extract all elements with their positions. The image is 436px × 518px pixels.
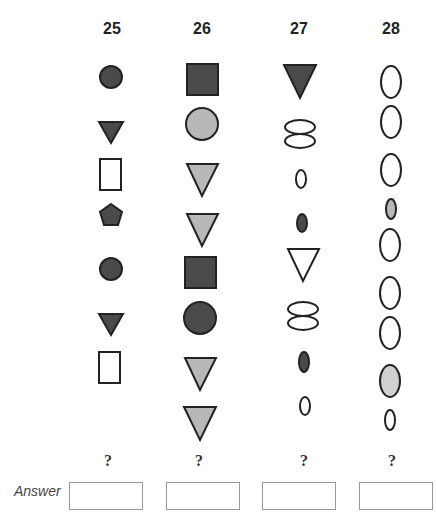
answer-box-27[interactable] <box>262 482 336 510</box>
question-mark-28: ? <box>382 452 402 470</box>
grey-triangle-down-icon <box>187 214 218 246</box>
white-ellipse-icon <box>381 106 401 138</box>
shape-sequences <box>0 0 436 518</box>
small-grey-ellipse-icon <box>386 199 396 219</box>
small-white-ellipse-icon <box>300 397 310 415</box>
white-double-ellipse-icon <box>288 316 318 330</box>
answer-label: Answer <box>14 483 61 499</box>
answer-box-28[interactable] <box>359 482 433 510</box>
white-rectangle-icon <box>99 352 120 383</box>
white-ellipse-icon <box>380 229 400 261</box>
dark-circle-icon <box>100 258 122 280</box>
dark-square-icon <box>187 64 218 95</box>
white-double-ellipse-icon <box>288 302 318 316</box>
question-mark-27: ? <box>294 452 314 470</box>
grey-circle-icon <box>186 108 218 140</box>
white-double-ellipse-icon <box>285 134 315 148</box>
dark-circle-icon <box>100 66 122 88</box>
white-ellipse-icon <box>380 277 400 309</box>
small-dark-ellipse-icon <box>297 214 307 232</box>
small-white-ellipse-icon <box>385 410 395 430</box>
white-ellipse-icon <box>381 66 401 98</box>
small-white-ellipse-icon <box>296 170 306 188</box>
dark-triangle-down-icon <box>99 314 123 335</box>
answer-box-25[interactable] <box>69 482 143 510</box>
grey-ellipse-icon <box>380 365 400 397</box>
white-ellipse-icon <box>380 317 400 349</box>
question-mark-26: ? <box>189 452 209 470</box>
grey-triangle-down-icon <box>187 164 218 196</box>
small-dark-ellipse-icon <box>299 352 309 372</box>
dark-circle-icon <box>184 302 216 334</box>
dark-square-icon <box>185 257 216 288</box>
dark-triangle-down-icon <box>99 122 123 143</box>
grey-triangle-down-icon <box>185 358 216 390</box>
white-triangle-down-icon <box>288 249 319 281</box>
grey-triangle-down-icon <box>184 407 216 440</box>
white-rectangle-icon <box>100 159 121 190</box>
question-mark-25: ? <box>98 452 118 470</box>
white-ellipse-icon <box>381 154 401 186</box>
dark-triangle-down-icon <box>284 65 316 98</box>
answer-box-26[interactable] <box>166 482 240 510</box>
white-double-ellipse-icon <box>285 120 315 134</box>
dark-pentagon-icon <box>100 204 122 225</box>
